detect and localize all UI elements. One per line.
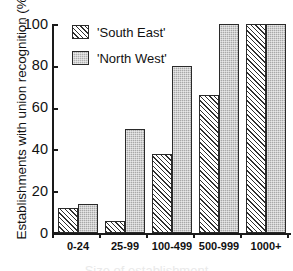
y-tick-label-80: 80 bbox=[8, 58, 48, 73]
bar-north-west-1000plus bbox=[266, 24, 286, 233]
legend-label-south-east: 'South East' bbox=[97, 25, 166, 40]
bar-south-east-25-99 bbox=[105, 221, 125, 234]
x-tick-label-0: 0-24 bbox=[54, 240, 102, 252]
y-tick-label-100: 100 bbox=[8, 17, 48, 32]
legend-entry-north-west: 'North West' bbox=[72, 48, 167, 68]
y-tick-80 bbox=[54, 66, 58, 68]
x-tick-label-4: 1000+ bbox=[242, 240, 290, 252]
x-tick-0 bbox=[52, 233, 54, 238]
y-axis-line bbox=[52, 24, 54, 234]
legend-swatch-north-west-icon bbox=[72, 51, 89, 65]
legend-label-north-west: 'North West' bbox=[97, 51, 167, 66]
legend-swatch-south-east-icon bbox=[72, 25, 89, 39]
bar-chart-figure: Establishments with union recognition (%… bbox=[0, 0, 293, 271]
x-axis-title-cropped: Size of establishment bbox=[0, 263, 293, 271]
y-tick-40 bbox=[54, 149, 58, 151]
x-tick-1 bbox=[99, 233, 101, 238]
x-tick-4 bbox=[240, 233, 242, 238]
x-tick-label-3: 500-999 bbox=[195, 240, 243, 252]
bar-south-east-0-24 bbox=[58, 208, 78, 233]
y-tick-label-20: 20 bbox=[8, 184, 48, 199]
bar-north-west-25-99 bbox=[125, 129, 145, 234]
x-tick-label-2: 100-499 bbox=[148, 240, 196, 252]
y-axis-title: Establishments with union recognition (%… bbox=[14, 10, 29, 240]
x-tick-label-1: 25-99 bbox=[101, 240, 149, 252]
bar-north-west-0-24 bbox=[78, 204, 98, 233]
bar-south-east-1000plus bbox=[246, 24, 266, 233]
x-tick-2 bbox=[146, 233, 148, 238]
y-tick-label-60: 60 bbox=[8, 100, 48, 115]
x-axis-line bbox=[52, 233, 291, 235]
bar-north-west-100-499 bbox=[172, 66, 192, 233]
y-tick-100 bbox=[54, 24, 58, 26]
bar-south-east-500-999 bbox=[199, 95, 219, 233]
x-tick-5 bbox=[287, 233, 289, 238]
x-tick-3 bbox=[193, 233, 195, 238]
legend-entry-south-east: 'South East' bbox=[72, 22, 167, 42]
chart-legend: 'South East' 'North West' bbox=[72, 22, 167, 74]
bar-south-east-100-499 bbox=[152, 154, 172, 233]
bar-north-west-500-999 bbox=[219, 24, 239, 233]
y-tick-60 bbox=[54, 108, 58, 110]
y-tick-label-0: 0 bbox=[8, 226, 48, 241]
y-tick-20 bbox=[54, 191, 58, 193]
y-tick-label-40: 40 bbox=[8, 142, 48, 157]
